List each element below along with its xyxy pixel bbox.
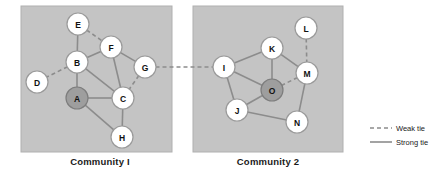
node-label-A: A [74,94,80,104]
node-label-D: D [34,78,40,88]
node-label-L: L [303,24,308,34]
legend-label-weak-tie: Weak tie [396,124,425,133]
network-diagram: ABCDEFGHIJKLMNO Community ICommunity 2 W… [0,0,444,181]
node-N[interactable]: N [286,111,308,133]
legend-label-strong-tie: Strong tie [396,138,428,147]
node-I[interactable]: I [213,56,235,78]
node-L[interactable]: L [295,17,317,39]
panel-community-2 [193,6,343,152]
node-O[interactable]: O [261,79,283,101]
panel-caption-community-2: Community 2 [237,156,299,167]
node-C[interactable]: C [112,87,134,109]
node-A[interactable]: A [66,87,88,109]
node-F[interactable]: F [100,36,122,58]
node-H[interactable]: H [111,126,133,148]
node-label-I: I [223,63,225,73]
node-D[interactable]: D [26,71,48,93]
node-label-B: B [74,58,80,68]
node-K[interactable]: K [261,37,283,59]
node-label-G: G [142,63,149,73]
node-label-N: N [294,118,300,128]
legend: Weak tieStrong tie [366,120,442,150]
node-J[interactable]: J [226,99,248,121]
node-label-O: O [269,86,276,96]
node-label-M: M [303,69,310,79]
node-label-H: H [119,133,125,143]
node-B[interactable]: B [66,51,88,73]
node-label-J: J [235,106,240,116]
node-E[interactable]: E [67,13,89,35]
node-label-C: C [120,94,126,104]
node-M[interactable]: M [296,62,318,84]
node-label-F: F [108,43,113,53]
node-G[interactable]: G [134,56,156,78]
panel-caption-community-1: Community I [70,156,130,167]
node-label-K: K [269,44,276,54]
node-label-E: E [75,20,81,30]
